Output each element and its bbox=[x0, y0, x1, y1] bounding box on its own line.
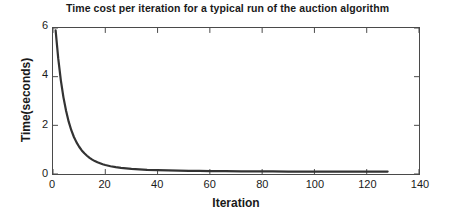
x-tick-label: 60 bbox=[190, 178, 230, 190]
plot-area bbox=[52, 27, 420, 175]
x-axis-label: Iteration bbox=[52, 196, 420, 210]
x-tick-label: 40 bbox=[137, 178, 177, 190]
x-tick-label: 100 bbox=[295, 178, 335, 190]
chart-title: Time cost per iteration for a typical ru… bbox=[0, 2, 455, 14]
x-tick-label: 80 bbox=[242, 178, 282, 190]
y-tick-marks bbox=[53, 28, 419, 174]
y-axis-label: Time(seconds) bbox=[19, 30, 33, 170]
x-tick-marks bbox=[53, 28, 419, 174]
x-tick-label: 120 bbox=[347, 178, 387, 190]
chart-screenshot: Time cost per iteration for a typical ru… bbox=[0, 0, 455, 223]
x-tick-label: 20 bbox=[85, 178, 125, 190]
x-tick-label: 140 bbox=[400, 178, 440, 190]
data-series-line bbox=[56, 30, 388, 171]
plot-canvas bbox=[53, 28, 419, 174]
